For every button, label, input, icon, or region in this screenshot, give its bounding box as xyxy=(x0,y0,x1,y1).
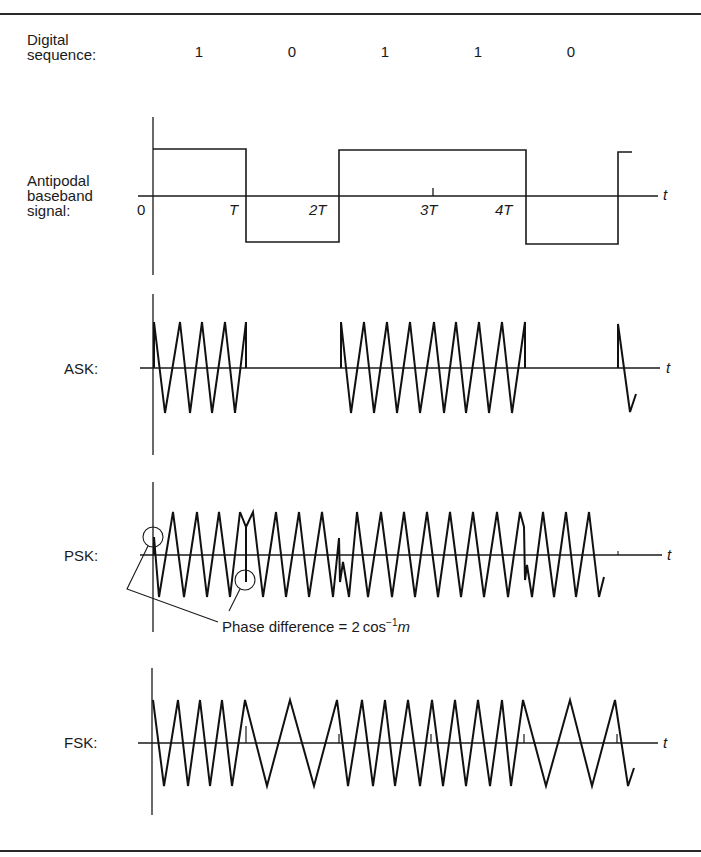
annotation-leader-line xyxy=(127,546,218,622)
waveform-plot xyxy=(0,0,701,857)
